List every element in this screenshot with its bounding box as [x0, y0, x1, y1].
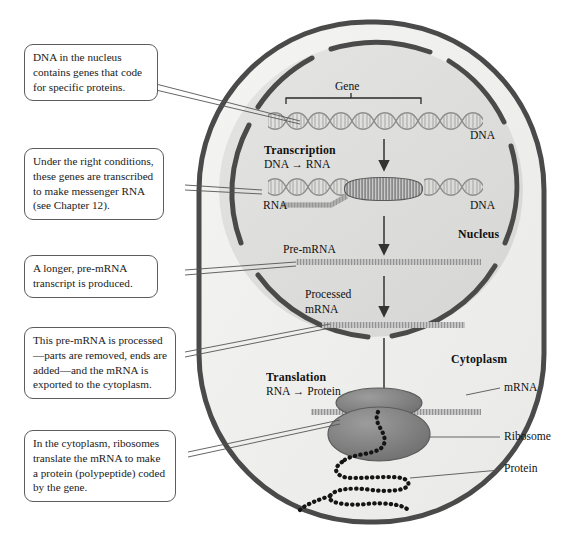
dna-strand-transcribing — [268, 178, 483, 201]
label-gene: Gene — [335, 80, 359, 93]
label-ribosome: Ribosome — [504, 430, 551, 443]
label-dna-top: DNA — [470, 129, 495, 142]
label-mrna: mRNA — [504, 381, 538, 394]
label-rna: RNA — [263, 199, 287, 212]
heading-transcription: Transcription — [264, 143, 336, 158]
heading-translation: Translation — [266, 370, 326, 385]
processed-mrna-strand — [322, 322, 465, 328]
label-nucleus: Nucleus — [458, 227, 499, 242]
label-dna-bottom: DNA — [470, 199, 495, 212]
callout-translation[interactable]: In the cytoplasm, ribosomes translate th… — [24, 430, 176, 502]
figure-canvas: DNA in the nucleus contains genes that c… — [0, 0, 570, 537]
equation-translation: RNA → Protein — [266, 385, 341, 398]
label-processed-mrna-line2: mRNA — [305, 303, 339, 316]
equation-transcription: DNA → RNA — [264, 158, 330, 171]
ribosome-large-subunit — [328, 407, 430, 461]
label-cytoplasm: Cytoplasm — [451, 352, 507, 367]
dna-strand-top — [268, 108, 483, 130]
callout-transcription[interactable]: Under the right conditions, these genes … — [24, 148, 164, 220]
transcription-bubble — [345, 178, 423, 201]
label-processed-mrna-line1: Processed — [305, 288, 351, 301]
callout-pre-mrna[interactable]: A longer, pre-mRNA transcript is produce… — [24, 255, 158, 298]
callout-dna-nucleus[interactable]: DNA in the nucleus contains genes that c… — [24, 44, 158, 101]
label-protein: Protein — [504, 462, 538, 475]
callout-processing[interactable]: This pre-mRNA is processed—parts are rem… — [24, 327, 176, 399]
label-pre-mrna: Pre-mRNA — [283, 243, 336, 256]
pre-mrna-strand — [296, 259, 481, 265]
